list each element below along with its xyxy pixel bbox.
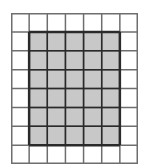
grid-diagram	[11, 13, 138, 164]
grid-canvas	[11, 13, 138, 164]
